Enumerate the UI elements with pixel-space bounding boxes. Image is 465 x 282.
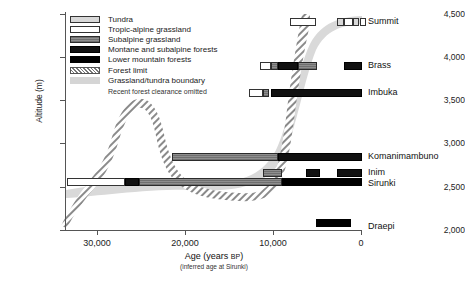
- legend-label-tropic-alpine-grassland: Tropic-alpine grassland: [108, 25, 191, 34]
- legend-swatch-lower-mountain-forests-icon: [70, 56, 100, 63]
- bar-imbuka-seg-2: [271, 89, 362, 97]
- y-tick-label-3000: 3,000: [423, 138, 465, 148]
- y-axis-line: [65, 12, 66, 231]
- y-tick-label-2000: 2,000: [423, 225, 465, 235]
- legend-label-forest-limit: Forest limit: [108, 66, 147, 75]
- chart-legend: Tundra Tropic-alpine grassland Subalpine…: [70, 14, 270, 95]
- bar-inim-seg-0: [263, 169, 282, 177]
- legend-swatch-forest-limit-icon: [70, 67, 100, 74]
- y-tick-label-2500: 2,500: [423, 182, 465, 192]
- legend-item-montane-subalpine-forests: Montane and subalpine forests: [70, 45, 270, 55]
- x-tick-label-10000: 10,000: [243, 238, 303, 248]
- legend-swatch-tropic-alpine-grassland-icon: [70, 26, 100, 33]
- bar-komanimambuno-seg-1: [278, 153, 362, 161]
- y-tick-4000: [60, 57, 65, 58]
- legend-label-subalpine-grassland: Subalpine grassland: [108, 35, 181, 44]
- legend-swatch-subalpine-grassland-icon: [70, 36, 100, 43]
- y-axis-title: Altitude (m): [34, 56, 44, 146]
- bar-sirunki-seg-2: [139, 178, 282, 186]
- y-tick-label-3500: 3,500: [423, 95, 465, 105]
- bar-brass-seg-1: [271, 62, 278, 70]
- legend-label-montane-subalpine-forests: Montane and subalpine forests: [108, 45, 217, 54]
- y-tick-3500: [60, 100, 65, 101]
- site-label-draepi: Draepi: [368, 221, 395, 231]
- bar-brass-seg-3: [298, 62, 317, 70]
- y-tick-label-4500: 4,500: [423, 9, 465, 19]
- bar-inim-seg-2: [337, 169, 362, 177]
- legend-item-tundra: Tundra: [70, 14, 270, 24]
- x-tick-label-0: 0: [331, 238, 391, 248]
- x-tick-0: [361, 230, 362, 235]
- legend-item-tropic-alpine-grassland: Tropic-alpine grassland: [70, 24, 270, 34]
- y-tick-3000: [60, 143, 65, 144]
- y-tick-2500: [60, 187, 65, 188]
- legend-note: Recent forest clearance omitted: [108, 88, 270, 95]
- x-axis-title: Age (years BP): [66, 251, 362, 261]
- bar-sirunki-seg-1: [125, 178, 139, 186]
- bar-sirunki-seg-3: [282, 178, 362, 186]
- legend-label-grassland-tundra-boundary: Grassland/tundra boundary: [108, 76, 205, 85]
- bar-brass-seg-2: [278, 62, 298, 70]
- legend-label-lower-mountain-forests: Lower mountain forests: [108, 55, 191, 64]
- x-tick-label-30000: 30,000: [67, 238, 127, 248]
- bar-summit-seg-0: [290, 18, 316, 26]
- bar-brass-seg-4: [344, 62, 362, 70]
- site-label-komanimambuno: Komanimambuno: [368, 151, 439, 161]
- bar-inim-seg-1: [306, 169, 320, 177]
- legend-item-lower-mountain-forests: Lower mountain forests: [70, 55, 270, 65]
- site-label-brass: Brass: [368, 60, 391, 70]
- bar-sirunki-seg-0: [67, 178, 125, 186]
- legend-swatch-grassland-tundra-boundary-icon: [70, 77, 100, 84]
- site-label-inim: Inim: [368, 167, 385, 177]
- legend-item-forest-limit: Forest limit: [70, 65, 270, 75]
- y-tick-label-4000: 4,000: [423, 52, 465, 62]
- x-tick-10000: [273, 230, 274, 235]
- legend-item-subalpine-grassland: Subalpine grassland: [70, 34, 270, 44]
- site-label-summit: Summit: [368, 16, 399, 26]
- x-axis-line: [65, 230, 362, 231]
- chart-root: 2,000 2,500 3,000 3,500 4,000 4,500 Alti…: [0, 0, 465, 282]
- legend-item-grassland-tundra-boundary: Grassland/tundra boundary: [70, 75, 270, 85]
- x-tick-30000: [97, 230, 98, 235]
- x-axis-title-text: Age (years BP): [185, 251, 243, 261]
- bar-draepi-seg-0: [316, 219, 351, 227]
- legend-swatch-tundra-icon: [70, 16, 100, 23]
- y-tick-2000: [60, 230, 65, 231]
- legend-swatch-montane-subalpine-forests-icon: [70, 46, 100, 53]
- x-tick-label-20000: 20,000: [155, 238, 215, 248]
- legend-label-tundra: Tundra: [108, 15, 133, 24]
- bar-summit-seg-3: [353, 18, 359, 26]
- bar-summit-seg-4: [360, 18, 366, 26]
- site-label-imbuka: Imbuka: [368, 87, 398, 97]
- bar-komanimambuno-seg-0: [172, 153, 278, 161]
- x-tick-20000: [185, 230, 186, 235]
- bar-summit-seg-2: [344, 18, 353, 26]
- bar-summit-seg-1: [337, 18, 344, 26]
- x-axis-subtitle: (inferred age at Sirunki): [66, 263, 362, 270]
- site-label-sirunki: Sirunki: [368, 178, 396, 188]
- y-tick-4500: [60, 14, 65, 15]
